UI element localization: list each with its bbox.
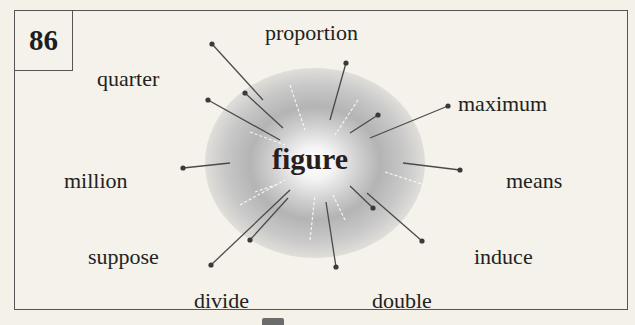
connector-line — [245, 93, 283, 128]
connector-dot — [208, 262, 213, 267]
connector-line — [250, 198, 288, 240]
center-word: figure — [272, 144, 348, 174]
connector-dot — [205, 97, 210, 102]
connector-dot — [247, 237, 252, 242]
connector-line — [208, 100, 280, 140]
related-word-double: double — [372, 290, 432, 312]
connector-dot — [343, 60, 348, 65]
related-word-induce: induce — [474, 246, 533, 268]
related-word-maximum: maximum — [458, 93, 547, 115]
connector-dot — [375, 112, 380, 117]
connector-dot — [419, 238, 424, 243]
ray-dash — [385, 172, 425, 185]
related-word-means: means — [506, 170, 562, 192]
connector-dot — [457, 167, 462, 172]
connector-line — [403, 163, 460, 170]
related-word-quarter: quarter — [97, 68, 159, 90]
connector-line — [370, 106, 448, 138]
connector-line — [183, 163, 230, 168]
connector-dot — [445, 103, 450, 108]
connector-line — [330, 63, 346, 120]
connector-dot — [242, 90, 247, 95]
connector-line — [350, 115, 378, 133]
connector-dot — [209, 41, 214, 46]
connector-line — [350, 186, 373, 208]
ray-dash — [333, 195, 345, 220]
connector-line — [367, 193, 422, 241]
connector-line — [212, 44, 263, 100]
connector-dot — [370, 205, 375, 210]
connector-line — [211, 190, 290, 265]
connector-line — [326, 202, 336, 267]
ray-dash — [290, 85, 305, 130]
related-word-proportion: proportion — [265, 22, 358, 44]
ray-dash — [310, 195, 315, 240]
related-word-million: million — [64, 170, 128, 192]
connector-dot — [180, 165, 185, 170]
card-number: 86 — [14, 10, 73, 71]
connector-dot — [333, 264, 338, 269]
ray-dash — [255, 185, 275, 192]
related-word-suppose: suppose — [88, 246, 159, 268]
related-word-divide: divide — [194, 290, 249, 312]
